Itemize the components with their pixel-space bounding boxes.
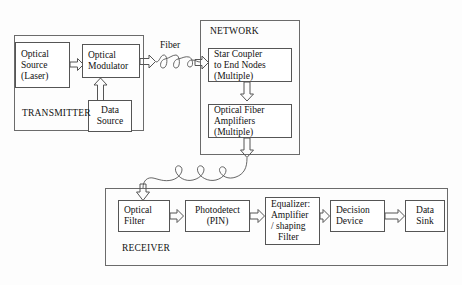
optical-modulator-box[interactable]: Optical Modulator	[82, 44, 140, 78]
optical-filter-line-2: Filter	[119, 216, 169, 227]
arrow-photodetector-to-equalizer	[250, 210, 265, 223]
star-coupler-line-3: (Multiple)	[209, 71, 291, 82]
data-source-line-1: Data	[89, 105, 131, 116]
optical-filter-line-1: Optical	[119, 205, 169, 216]
diagram-canvas: TRANSMITTER NETWORK RECEIVER Fiber Optic…	[0, 0, 462, 285]
decision-device-box[interactable]: Decision Device	[330, 200, 385, 232]
star-coupler-line-2: to End Nodes	[209, 60, 291, 71]
arrow-decision-to-sink	[385, 210, 405, 223]
equalizer-line-3: / shaping	[266, 221, 319, 232]
upper-fiber-coil	[156, 55, 200, 68]
equalizer-box[interactable]: Equalizer: Amplifier / shaping Filter	[265, 197, 320, 245]
transmitter-label: TRANSMITTER	[22, 108, 91, 118]
equalizer-line-4: Filter	[266, 232, 319, 243]
arrow-amplifiers-out	[241, 138, 254, 158]
equalizer-line-2: Amplifier	[266, 210, 319, 221]
arrow-equalizer-to-decision	[320, 210, 330, 223]
optical-source-line-3: (Laser)	[16, 71, 69, 82]
optical-source-line-2: Source	[16, 60, 69, 71]
fiber-amplifiers-box[interactable]: Optical Fiber Amplifiers (Multiple)	[208, 104, 292, 138]
decision-device-line-1: Decision	[331, 205, 384, 216]
optical-modulator-line-1: Optical	[83, 50, 139, 61]
data-sink-line-2: Sink	[406, 216, 444, 227]
photodetector-line-2: (PIN)	[186, 216, 249, 227]
star-coupler-box[interactable]: Star Coupler to End Nodes (Multiple)	[208, 48, 292, 82]
decision-device-line-2: Device	[331, 216, 384, 227]
arrow-modulator-out	[140, 55, 156, 68]
arrow-fiber-into-network	[195, 56, 209, 69]
arrow-coupler-to-amplifiers	[241, 82, 254, 101]
photodetector-box[interactable]: Photodetect (PIN)	[185, 200, 250, 232]
lower-fiber-coil	[143, 158, 247, 188]
data-sink-line-1: Data	[406, 205, 444, 216]
fiber-amplifiers-line-1: Optical Fiber	[209, 105, 291, 116]
fiber-amplifiers-line-3: (Multiple)	[209, 127, 291, 138]
equalizer-line-1: Equalizer:	[266, 199, 319, 210]
data-source-box[interactable]: Data Source	[88, 100, 132, 132]
data-source-line-2: Source	[89, 116, 131, 127]
network-label: NETWORK	[210, 26, 259, 36]
fiber-label: Fiber	[160, 40, 180, 50]
photodetector-line-1: Photodetect	[186, 205, 249, 216]
optical-modulator-line-2: Modulator	[83, 61, 139, 72]
receiver-label: RECEIVER	[122, 243, 170, 253]
data-sink-box[interactable]: Data Sink	[405, 200, 445, 232]
arrow-datasource-to-modulator	[94, 78, 107, 101]
optical-source-line-1: Optical	[16, 49, 69, 60]
optical-filter-box[interactable]: Optical Filter	[118, 200, 170, 232]
fiber-amplifiers-line-2: Amplifiers	[209, 116, 291, 127]
optical-source-box[interactable]: Optical Source (Laser)	[15, 42, 70, 88]
arrow-filter-to-photodetector	[170, 210, 184, 223]
star-coupler-line-1: Star Coupler	[209, 49, 291, 60]
